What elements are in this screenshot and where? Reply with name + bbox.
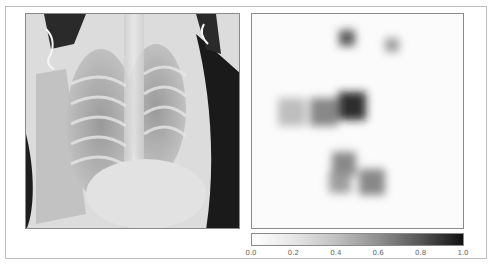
colorbar-tick-label: 0.4	[330, 249, 341, 257]
colorbar-tick-label: 0.2	[288, 249, 299, 257]
attention-heatmap	[251, 13, 464, 229]
chest-xray-image	[25, 13, 240, 229]
colorbar	[251, 233, 464, 246]
xray-illustration	[26, 14, 240, 229]
heatmap-canvas	[252, 14, 464, 229]
colorbar-tick-label: 0.0	[245, 249, 256, 257]
colorbar-tick-label: 1.0	[457, 249, 468, 257]
colorbar-tick-label: 0.6	[373, 249, 384, 257]
colorbar-tick-label: 0.8	[415, 249, 426, 257]
